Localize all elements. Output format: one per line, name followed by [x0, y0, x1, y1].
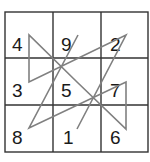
cell-number-7: 7 — [110, 80, 121, 101]
cell-number-1: 1 — [63, 127, 74, 148]
cell-number-5: 5 — [61, 80, 72, 101]
cell-number-6: 6 — [110, 127, 121, 148]
magic-square-diagram: 492357816 — [0, 0, 150, 162]
cell-number-3: 3 — [12, 80, 23, 101]
cell-number-2: 2 — [110, 34, 121, 55]
cell-number-4: 4 — [12, 34, 23, 55]
cell-number-8: 8 — [12, 127, 23, 148]
